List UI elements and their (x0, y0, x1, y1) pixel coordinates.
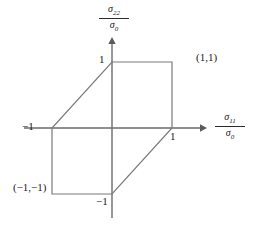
x-axis-label-numerator: σ11 (215, 112, 245, 126)
x-axis-label-denominator: σ0 (215, 127, 245, 141)
vertex-label-top-right: (1,1) (196, 52, 217, 63)
y-axis-label-numerator: σ22 (99, 4, 129, 18)
y-axis-arrowhead (108, 37, 115, 44)
x-axis-label: σ11 σ0 (215, 112, 245, 142)
x-axis-tick-label-1: 1 (170, 131, 176, 142)
x-axis-arrowhead (200, 124, 207, 131)
x-axis-tick-label-minus-1: −1 (22, 121, 34, 132)
y-axis-label-denominator: σ0 (99, 19, 129, 33)
yield-locus-figure: σ22 σ0 σ11 σ0 1 −1 −1 1 (1,1) (−1,−1) (0, 0, 265, 233)
y-axis-label: σ22 σ0 (99, 4, 129, 34)
y-axis-tick-label-1: 1 (99, 54, 105, 65)
vertex-label-bottom-left: (−1,−1) (13, 182, 46, 193)
y-axis-tick-label-minus-1: −1 (96, 196, 108, 207)
